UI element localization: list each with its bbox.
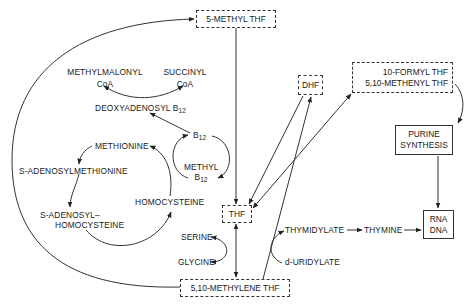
label-b12: B12 [193, 130, 206, 140]
label-text: DEOXYADENOSYL B [95, 103, 178, 113]
label-thymine: THYMINE [364, 225, 402, 235]
node-label: DHF [302, 80, 319, 91]
node-purine-synthesis: PURINE SYNTHESIS [395, 125, 453, 155]
label-homocysteine: HOMOCYSTEINE [135, 197, 204, 207]
node-label-line2: DNA [430, 225, 448, 236]
node-label: THF [229, 209, 245, 220]
arrow-methylene-to-methylthf [12, 19, 194, 287]
arrow-methionine-to-sam [79, 146, 92, 164]
label-serine: SERINE [181, 232, 213, 242]
node-10-formyl-thf: 10-FORMYL THF 5,10-METHENYL THF [352, 62, 453, 93]
arrow-thf-formyl [253, 94, 351, 208]
arrow-sam-to-sah [70, 174, 79, 207]
node-5-10-methylene-thf: 5,10-METHYLENE THF [180, 279, 290, 297]
label-line1: S-ADENOSYL– [40, 210, 124, 220]
label-subscript: 12 [200, 176, 207, 183]
node-label: 5,10-METHYLENE THF [191, 283, 280, 294]
node-label-line2: 5,10-METHENYL THF [365, 78, 448, 89]
arrow-homocysteine-to-methionine [150, 146, 171, 196]
label-line2: CoA [60, 79, 150, 89]
label-line1: METHYLMALONYL [60, 67, 150, 77]
node-label-line2: SYNTHESIS [400, 140, 447, 151]
label-glycine: GLYCINE [178, 257, 215, 267]
label-succinyl-coa: SUCCINYL CoA [160, 67, 210, 89]
arrow-duridylate-to-thymidylate [271, 231, 284, 263]
folate-b12-pathway-diagram: 5-METHYL THF DHF 10-FORMYL THF 5,10-METH… [0, 0, 468, 306]
arrow-b12-to-deoxyadenosyl [150, 113, 190, 133]
node-label: 5-METHYL THF [206, 14, 266, 25]
label-s-adenosylmethionine: S-ADENOSYLMETHIONINE [19, 166, 128, 176]
node-thf: THF [222, 205, 252, 223]
label-line2: B12 [184, 172, 218, 182]
node-5-methyl-thf: 5-METHYL THF [196, 10, 276, 28]
node-label-line1: RNA [430, 214, 448, 225]
node-label-line1: 10-FORMYL THF [383, 67, 448, 78]
label-subscript: 12 [199, 134, 206, 141]
arrow-thf-to-dhf [249, 96, 303, 204]
label-line2: HOMOCYSTEINE [40, 220, 124, 230]
label-subscript: 12 [178, 107, 185, 114]
node-dhf: DHF [298, 75, 323, 95]
label-line1: SUCCINYL [160, 67, 210, 77]
label-s-adenosyl-homocysteine: S-ADENOSYL– HOMOCYSTEINE [40, 210, 124, 230]
label-line1: METHYL [184, 162, 218, 172]
label-line2: CoA [160, 79, 210, 89]
label-methylmalonyl-coa: METHYLMALONYL CoA [60, 67, 150, 89]
label-methyl-b12: METHYL B12 [184, 162, 218, 182]
node-rna-dna: RNA DNA [423, 210, 454, 239]
label-methionine: METHIONINE [95, 141, 149, 151]
label-deoxyadenosyl-b12: DEOXYADENOSYL B12 [95, 103, 186, 113]
label-d-uridylate: d-URIDYLATE [285, 257, 340, 267]
arrow-formyl-to-purine [455, 84, 463, 123]
node-label-line1: PURINE [408, 129, 440, 140]
label-thymidylate: THYMIDYLATE [285, 225, 344, 235]
